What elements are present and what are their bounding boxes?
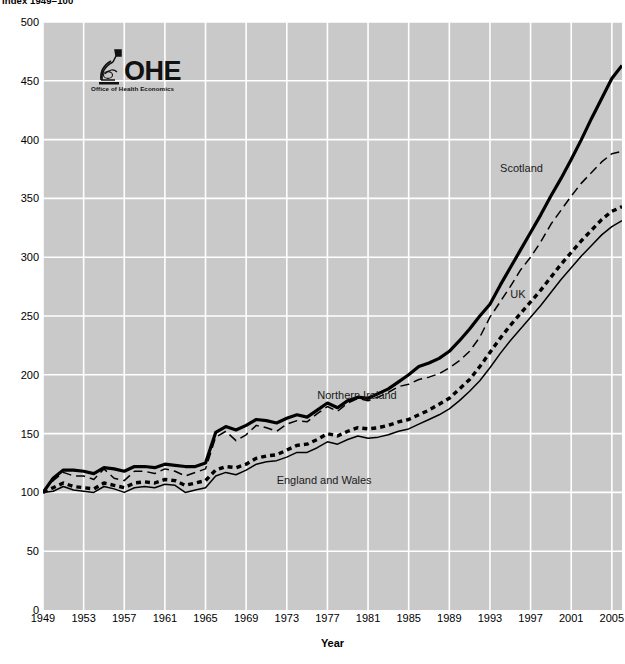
y-tick-label: 150 [3, 428, 39, 440]
y-tick-label: 100 [3, 486, 39, 498]
y-tick-label: 350 [3, 192, 39, 204]
scotland-label: Scotland [500, 162, 543, 174]
y-axis: 050100150200250300350400450500 [0, 22, 39, 610]
x-tick-label: 1973 [267, 612, 307, 624]
x-axis-title: Year [43, 637, 622, 649]
ohe-logo: OHE Office of Health Economics [90, 47, 202, 95]
x-tick-label: 1949 [23, 612, 63, 624]
x-tick-label: 1969 [226, 612, 266, 624]
plot-area: OHE Office of Health Economics ScotlandN… [43, 22, 622, 610]
y-tick-label: 300 [3, 251, 39, 263]
x-tick-label: 2005 [592, 612, 625, 624]
x-axis: 1949195319571961196519691973197719811985… [43, 612, 622, 630]
series-northern-ireland [43, 151, 622, 492]
y-tick-label: 50 [3, 545, 39, 557]
uk-label: UK [510, 288, 525, 300]
y-tick-label: 500 [3, 16, 39, 28]
x-tick-label: 1981 [348, 612, 388, 624]
chart-root: Index 1949=100 0501001502002503003504004… [0, 0, 625, 664]
series-england-and-wales [43, 221, 622, 493]
x-tick-label: 1989 [429, 612, 469, 624]
england-and-wales-label: England and Wales [277, 474, 372, 486]
chart-title: Index 1949=100 [2, 0, 73, 6]
ohe-tagline: Office of Health Economics [91, 85, 174, 92]
y-tick-label: 200 [3, 369, 39, 381]
x-tick-label: 1977 [307, 612, 347, 624]
y-tick-label: 250 [3, 310, 39, 322]
series-scotland [43, 66, 622, 493]
y-tick-label: 400 [3, 134, 39, 146]
x-tick-label: 1965 [186, 612, 226, 624]
x-tick-label: 1953 [64, 612, 104, 624]
y-tick-label: 450 [3, 75, 39, 87]
x-tick-label: 1993 [470, 612, 510, 624]
northern-ireland-label: Northern Ireland [317, 389, 397, 401]
x-tick-label: 2001 [551, 612, 591, 624]
x-tick-label: 1997 [511, 612, 551, 624]
x-tick-label: 1985 [389, 612, 429, 624]
ohe-wordmark: OHE [124, 56, 181, 87]
x-tick-label: 1957 [104, 612, 144, 624]
x-tick-label: 1961 [145, 612, 185, 624]
series-lines [43, 22, 622, 610]
